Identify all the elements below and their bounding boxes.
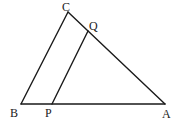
label-a: A [162,107,171,121]
segment-pq [52,31,88,104]
segment-bc [21,12,68,104]
label-b: B [10,106,18,120]
label-c: C [62,0,70,14]
segment-ca [68,12,165,104]
label-p: P [45,106,52,120]
label-q: Q [89,19,98,33]
geometry-diagram: C Q B P A [0,0,177,122]
